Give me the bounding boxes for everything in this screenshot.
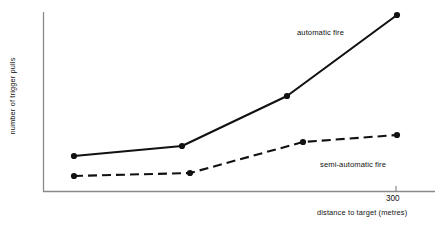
data-point (394, 12, 400, 18)
semi-automatic-fire-line (74, 135, 397, 176)
data-point (394, 132, 400, 138)
series-automatic-fire (71, 12, 400, 159)
series-label-semi-automatic-fire: semi-automatic fire (320, 160, 386, 169)
data-point (300, 139, 306, 145)
chart-container: number of trigger pulls distance to targ… (0, 0, 442, 226)
data-point (187, 170, 193, 176)
automatic-fire-line (74, 15, 397, 156)
y-axis-label: number of trigger pulls (8, 58, 17, 135)
data-point (284, 93, 290, 99)
series-label-automatic-fire: automatic fire (297, 28, 344, 37)
series-semi-automatic-fire (71, 132, 400, 179)
data-point (71, 153, 77, 159)
data-point (71, 173, 77, 179)
x-axis-label: distance to target (metres) (317, 208, 407, 217)
data-point (179, 143, 185, 149)
chart-plot-area (0, 0, 442, 226)
x-tick-label-300: 300 (386, 194, 400, 203)
